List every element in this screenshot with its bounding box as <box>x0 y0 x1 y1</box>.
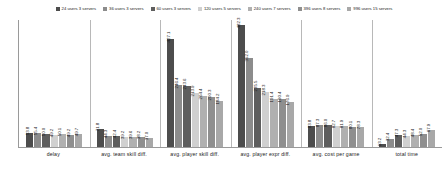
bar-item[interactable]: 50.1 <box>59 20 66 147</box>
bar-item[interactable]: 176.9 <box>287 20 294 147</box>
bar[interactable] <box>316 125 323 147</box>
bar-group: 482.3352.0235.5218.3191.4190.4176.9 <box>231 20 302 147</box>
bar-item[interactable]: 47.3 <box>395 20 402 147</box>
bar[interactable] <box>254 88 261 147</box>
bar[interactable] <box>341 126 348 147</box>
bar[interactable] <box>175 85 182 147</box>
bar-item[interactable]: 38.2 <box>138 20 145 147</box>
bar[interactable] <box>279 99 286 147</box>
bar-item[interactable]: 78.3 <box>357 20 364 147</box>
bar-group: 13.232.447.344.348.452.067.9 <box>372 20 443 147</box>
bar-item[interactable]: 39.2 <box>121 20 128 147</box>
category-label: avg. player skill diff. <box>159 150 230 164</box>
bar[interactable] <box>26 133 33 147</box>
category-label: avg. cost per game <box>301 150 372 164</box>
bar[interactable] <box>357 127 364 147</box>
legend-label: 24 users 3 servers <box>62 6 96 11</box>
bar[interactable] <box>216 101 223 147</box>
legend-label: 60 users 3 servers <box>157 6 191 11</box>
bar-group: 53.855.450.049.250.149.249.7 <box>19 20 90 147</box>
bar[interactable] <box>238 25 245 147</box>
bar-item[interactable]: 218.3 <box>262 20 269 147</box>
legend-item: 36 users 3 servers <box>103 6 143 11</box>
bar[interactable] <box>324 125 331 147</box>
category-label: delay <box>18 150 89 164</box>
legend-swatch-icon <box>56 7 60 11</box>
bar-item[interactable]: 67.9 <box>428 20 435 147</box>
legend-label: 996 users 15 servers <box>353 6 392 11</box>
bar[interactable] <box>270 99 277 147</box>
category-axis: delay avg. team skill diff. avg. player … <box>18 150 442 164</box>
bar[interactable] <box>287 102 294 147</box>
bar-item[interactable]: 243.6 <box>183 20 190 147</box>
bar-group: 71.844.342.439.239.638.237.0 <box>90 20 161 147</box>
legend-label: 240 users 7 servers <box>254 6 291 11</box>
bar[interactable] <box>333 126 340 147</box>
category-label: avg. player expr diff. <box>230 150 301 164</box>
bar[interactable] <box>308 126 315 147</box>
bar[interactable] <box>192 93 199 147</box>
bar-item[interactable]: 81.9 <box>341 20 348 147</box>
bar-item[interactable]: 191.4 <box>270 20 277 147</box>
bar-item[interactable]: 32.4 <box>387 20 394 147</box>
legend-item: 396 users 8 servers <box>298 6 341 11</box>
legend-item: 60 users 3 servers <box>151 6 191 11</box>
legend-swatch-icon <box>298 7 302 11</box>
bar-item[interactable]: 200.3 <box>208 20 215 147</box>
bar-item[interactable]: 184.2 <box>216 20 223 147</box>
legend-item: 996 users 15 servers <box>347 6 392 11</box>
plot-area: 53.855.450.049.250.149.249.771.844.342.4… <box>18 20 442 148</box>
bar-group: 83.887.386.082.781.980.178.3 <box>301 20 372 147</box>
legend-label: 396 users 8 servers <box>304 6 341 11</box>
bar-item[interactable]: 87.3 <box>316 20 323 147</box>
bar-group: 427.1246.4243.6213.9204.4200.3184.2 <box>160 20 231 147</box>
bar-item[interactable]: 482.3 <box>238 20 245 147</box>
chart-legend: 24 users 3 servers 36 users 3 servers 60… <box>0 6 448 11</box>
grouped-bar-chart: 24 users 3 servers 36 users 3 servers 60… <box>0 0 448 170</box>
bar[interactable] <box>75 134 82 147</box>
legend-swatch-icon <box>103 7 107 11</box>
category-label: total time <box>371 150 442 164</box>
bar-item[interactable]: 83.8 <box>308 20 315 147</box>
bar-item[interactable]: 39.6 <box>129 20 136 147</box>
legend-swatch-icon <box>347 7 351 11</box>
bar[interactable] <box>200 96 207 148</box>
bar-item[interactable]: 49.7 <box>75 20 82 147</box>
legend-swatch-icon <box>198 7 202 11</box>
bar[interactable] <box>428 130 435 147</box>
bar[interactable] <box>167 39 174 147</box>
category-label: avg. team skill diff. <box>89 150 160 164</box>
bar-item[interactable]: 190.4 <box>279 20 286 147</box>
bar-item[interactable]: 42.4 <box>113 20 120 147</box>
legend-item: 24 users 3 servers <box>56 6 96 11</box>
bar-item[interactable]: 352.0 <box>246 20 253 147</box>
bar[interactable] <box>349 127 356 147</box>
bar-item[interactable]: 13.2 <box>379 20 386 147</box>
legend-swatch-icon <box>151 7 155 11</box>
bar-item[interactable]: 37.0 <box>146 20 153 147</box>
legend-label: 36 users 3 servers <box>109 6 143 11</box>
bar-item[interactable]: 213.9 <box>192 20 199 147</box>
bar-item[interactable]: 44.3 <box>105 20 112 147</box>
bar[interactable] <box>246 58 253 147</box>
bar-item[interactable]: 71.8 <box>97 20 104 147</box>
bar-item[interactable]: 204.4 <box>200 20 207 147</box>
bar-item[interactable]: 235.5 <box>254 20 261 147</box>
legend-label: 120 users 5 servers <box>204 6 241 11</box>
legend-item: 240 users 7 servers <box>248 6 291 11</box>
legend-item: 120 users 5 servers <box>198 6 241 11</box>
legend-swatch-icon <box>248 7 252 11</box>
